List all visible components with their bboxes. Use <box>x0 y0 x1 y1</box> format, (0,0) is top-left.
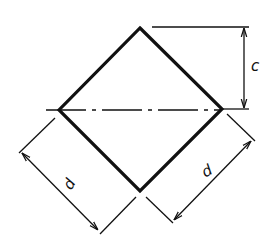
label-d-left: d <box>59 175 80 193</box>
diagram-canvas: c d d <box>0 0 275 248</box>
dimension-line-d-right <box>174 141 251 220</box>
extension-line-left-vertex <box>19 118 55 153</box>
dimension-c: c <box>152 27 260 109</box>
dimension-line-d-left <box>22 153 98 230</box>
label-c: c <box>251 57 260 75</box>
extension-line-bottom-vertex-left <box>100 197 136 234</box>
extension-line-bottom-vertex-right <box>146 197 173 223</box>
label-d-right: d <box>198 161 216 182</box>
dimension-d-left: d <box>19 118 136 234</box>
extension-line-right-vertex <box>227 114 255 141</box>
